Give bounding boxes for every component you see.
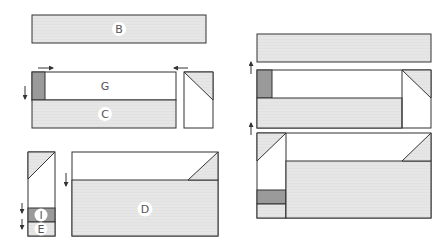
label-e: E (38, 223, 45, 236)
assembled-middle-row (257, 70, 431, 128)
assembled-bottom-row (257, 133, 431, 218)
label-g: G (101, 80, 110, 93)
piece-g-c-composite: G C (32, 72, 176, 128)
label-b: B (115, 23, 123, 36)
piece-b: B (32, 15, 206, 43)
piece-d: D (72, 152, 218, 236)
piece-tall-i-e: I E (28, 152, 55, 236)
label-d: D (141, 203, 149, 216)
dark-square (32, 72, 45, 100)
piece-narrow-triangle (184, 72, 213, 128)
quilt-assembly-diagram: B G C I E D (0, 0, 447, 238)
label-i: I (39, 209, 42, 222)
assembled-top-strip (257, 34, 431, 62)
label-c: C (101, 108, 109, 121)
